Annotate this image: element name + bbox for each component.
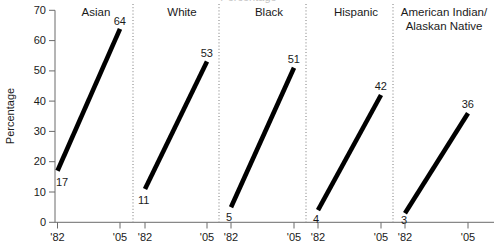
- value-label-end: 42: [375, 80, 387, 92]
- panel-title: Asian: [82, 6, 111, 18]
- series-line-hispanic: [318, 95, 381, 210]
- series-line-white: [145, 62, 207, 189]
- panel-black: Black 5 51 '82 '05: [224, 6, 301, 243]
- panel-title-line1: American Indian/: [401, 6, 488, 18]
- panel-white: White 11 53 '82 '05: [138, 6, 214, 243]
- value-label-end: 36: [462, 98, 474, 110]
- y-tick-label: 10: [34, 186, 46, 198]
- x-tick-label: '82: [138, 231, 152, 243]
- value-label-start: 11: [138, 194, 149, 206]
- small-multiples-line-chart: Percentage 70 60 50 40 30 20 10 0: [0, 0, 497, 246]
- value-label-end: 64: [114, 15, 126, 27]
- x-tick-label: '82: [398, 231, 412, 243]
- value-label-start: 17: [56, 176, 68, 188]
- x-tick-label: '05: [113, 231, 127, 243]
- chart-container: Percentage Percentage 70 60 50 40 30 20 …: [0, 0, 497, 246]
- panel-hispanic: Hispanic 4 42 '82 '05: [311, 6, 388, 243]
- y-tick-label: 0: [40, 216, 46, 228]
- value-label-end: 53: [201, 47, 213, 59]
- x-tick-label: '05: [200, 231, 214, 243]
- panel-asian: Asian 17 64 '82 '05: [50, 6, 127, 243]
- series-line-asian: [58, 29, 121, 171]
- x-tick-label: '82: [50, 231, 64, 243]
- series-line-black: [231, 68, 294, 208]
- y-tick-label: 40: [34, 95, 46, 107]
- panel-title: Black: [255, 6, 283, 18]
- x-tick-label: '82: [311, 231, 325, 243]
- panel-title: White: [167, 6, 196, 18]
- y-axis-title: Percentage: [4, 88, 16, 144]
- panel-title: Hispanic: [334, 6, 378, 18]
- series-line-american-indian: [405, 113, 468, 213]
- x-tick-label: '05: [287, 231, 301, 243]
- value-label-start: 3: [401, 214, 407, 226]
- y-tick-label: 30: [34, 125, 46, 137]
- y-tick-label: 70: [34, 4, 46, 16]
- y-tick-label: 60: [34, 34, 46, 46]
- y-tick-label: 50: [34, 64, 46, 76]
- x-tick-label: '05: [461, 231, 475, 243]
- panel-american-indian-alaskan-native: American Indian/ Alaskan Native 3 36 '82…: [398, 6, 488, 243]
- value-label-end: 51: [288, 53, 300, 65]
- value-label-start: 5: [226, 211, 232, 223]
- x-tick-label: '82: [224, 231, 238, 243]
- x-tick-label: '05: [374, 231, 388, 243]
- y-tick-label: 20: [34, 155, 46, 167]
- panel-title-line2: Alaskan Native: [406, 20, 483, 32]
- y-axis: 70 60 50 40 30 20 10 0: [34, 4, 55, 228]
- panel-dividers: [133, 4, 393, 222]
